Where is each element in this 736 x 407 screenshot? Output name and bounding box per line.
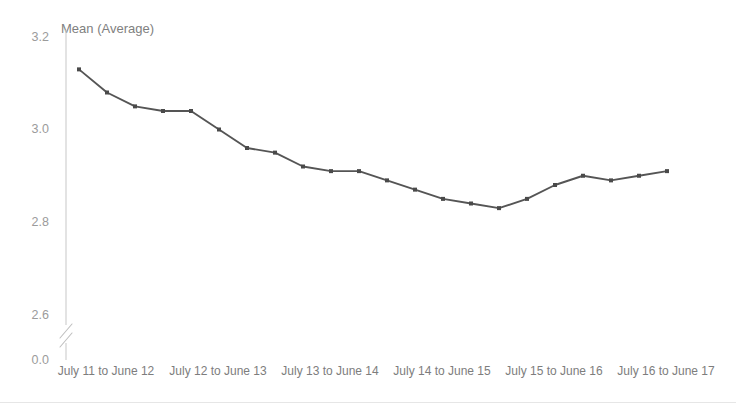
data-point-marker xyxy=(497,206,501,210)
data-point-marker xyxy=(301,165,305,169)
data-point-marker xyxy=(609,178,613,182)
data-point-marker xyxy=(665,169,669,173)
x-tick-label-5: July 16 to June 17 xyxy=(617,364,715,378)
data-point-marker xyxy=(133,104,137,108)
data-point-marker xyxy=(357,169,361,173)
data-point-marker xyxy=(413,188,417,192)
data-point-marker xyxy=(217,128,221,132)
y-axis-title: Mean (Average) xyxy=(61,21,154,36)
data-point-marker xyxy=(161,109,165,113)
data-point-marker xyxy=(273,151,277,155)
data-point-marker xyxy=(441,197,445,201)
y-tick-label-3-2: 3.2 xyxy=(32,30,49,44)
x-tick-label-1: July 12 to June 13 xyxy=(169,364,267,378)
line-chart: Mean (Average) 3.2 3.0 2.8 2.6 0.0 July … xyxy=(0,0,736,407)
data-point-marker xyxy=(553,183,557,187)
data-point-marker xyxy=(385,178,389,182)
series-markers-mean-average xyxy=(77,67,669,210)
data-point-marker xyxy=(469,202,473,206)
data-point-marker xyxy=(245,146,249,150)
y-axis-ticks: 3.2 3.0 2.8 2.6 0.0 xyxy=(32,30,49,367)
x-tick-label-0: July 11 to June 12 xyxy=(58,364,155,378)
y-tick-label-2-8: 2.8 xyxy=(32,215,49,229)
x-tick-label-4: July 15 to June 16 xyxy=(505,364,603,378)
data-point-marker xyxy=(77,67,81,71)
data-point-marker xyxy=(105,91,109,95)
data-point-marker xyxy=(581,174,585,178)
data-point-marker xyxy=(525,197,529,201)
x-tick-label-2: July 13 to June 14 xyxy=(281,364,379,378)
data-point-marker xyxy=(329,169,333,173)
y-tick-label-0-0: 0.0 xyxy=(32,353,49,367)
series-line-mean-average xyxy=(79,69,667,208)
y-tick-label-3-0: 3.0 xyxy=(32,122,49,136)
y-tick-label-2-6: 2.6 xyxy=(32,308,49,322)
chart-container: Mean (Average) 3.2 3.0 2.8 2.6 0.0 July … xyxy=(0,0,736,407)
x-tick-label-3: July 14 to June 15 xyxy=(393,364,491,378)
x-axis-ticks: July 11 to June 12 July 12 to June 13 Ju… xyxy=(58,364,715,378)
data-point-marker xyxy=(189,109,193,113)
data-point-marker xyxy=(637,174,641,178)
